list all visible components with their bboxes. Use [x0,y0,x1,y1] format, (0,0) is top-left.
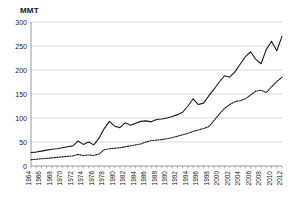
x-axis-tick-label: 1978 [98,171,105,186]
data-series-dotted-line [31,77,282,160]
x-axis-tick-label: 1964 [25,171,32,186]
x-axis-tick-label: 2010 [266,171,273,186]
x-axis-tick-label: 1992 [171,171,178,186]
y-axis-tick-label: 100 [15,115,27,122]
y-axis-tick-label: 50 [19,139,27,146]
line-chart-plot: 050100150200250300 196419661968197019721… [0,0,293,199]
x-axis-tick-label: 1972 [67,171,74,186]
y-axis-tick-label: 250 [15,43,27,50]
x-axis-tick-label: 2012 [276,171,283,186]
y-axis-tick-label: 0 [23,163,27,170]
x-axis-tick-label: 1996 [192,171,199,186]
x-axis-tick-label: 1982 [119,171,126,186]
x-axis-tick-label: 2000 [213,171,220,186]
x-axis-tick-label: 1966 [35,171,42,186]
chart-container: MMT 050100150200250300 19641966196819701… [0,0,293,199]
x-axis-tick-label: 1998 [203,171,210,186]
x-axis-tick-label: 1984 [130,171,137,186]
x-axis-tick-label: 1976 [88,171,95,186]
x-axis-tick-label: 2004 [234,171,241,186]
x-axis-tick-label: 1968 [46,171,53,186]
y-axis-tick-label: 200 [15,67,27,74]
x-axis-tick-label: 2002 [224,171,231,186]
x-axis-tick-label: 1970 [56,171,63,186]
data-series-solid-line [31,36,282,152]
x-axis-tick-label: 1990 [161,171,168,186]
y-axis-tick-label: 150 [15,91,27,98]
y-axis-tick-label: 300 [15,19,27,26]
x-axis-tick-label: 2006 [245,171,252,186]
gridlines [31,22,282,142]
x-axis-tick-label: 2008 [255,171,262,186]
x-axis-tick-label: 1980 [109,171,116,186]
x-axis-tick-label: 1988 [151,171,158,186]
y-axis-tick-labels: 050100150200250300 [15,19,27,170]
x-axis-tick-label: 1986 [140,171,147,186]
x-axis-tick-label: 1994 [182,171,189,186]
x-axis-tick-labels: 1964196619681970197219741976197819801982… [25,171,283,186]
x-axis-tick-label: 1974 [77,171,84,186]
